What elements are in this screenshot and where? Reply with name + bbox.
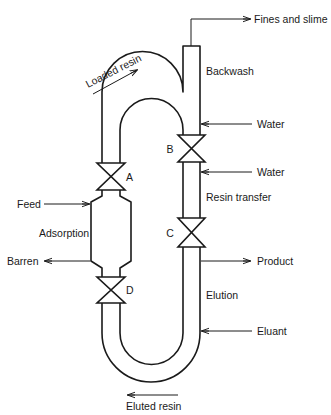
product-label: Product [257, 255, 293, 267]
elution-label: Elution [206, 289, 238, 301]
valve-a-label: A [126, 171, 133, 183]
fines-line [191, 19, 250, 46]
valve-d [97, 277, 125, 303]
ion-exchange-diagram: Fines and slime Backwash Water B Water A… [0, 0, 331, 415]
fines-label: Fines and slime [254, 13, 328, 25]
water-top-label: Water [257, 118, 285, 130]
resin-transfer-label: Resin transfer [206, 191, 272, 203]
backwash-label: Backwash [206, 65, 254, 77]
barren-label: Barren [7, 255, 39, 267]
top-arc-inner [120, 99, 183, 163]
eluted-resin-label: Eluted resin [126, 400, 182, 412]
valve-c-label: C [166, 227, 174, 239]
adsorption-label: Adsorption [39, 227, 89, 239]
water-mid-label: Water [257, 166, 285, 178]
valve-b [178, 135, 205, 162]
valve-c [178, 218, 205, 247]
valve-b-label: B [166, 143, 173, 155]
loaded-resin-label: Loaded resin [83, 51, 143, 89]
valve-d-label: D [126, 284, 134, 296]
adsorption-vessel [91, 190, 131, 277]
bottom-u-outer [102, 247, 200, 382]
valve-a [97, 163, 125, 190]
bottom-u-inner [120, 247, 183, 365]
feed-label: Feed [17, 198, 41, 210]
resin-loop [91, 46, 200, 382]
eluant-label: Eluant [257, 325, 287, 337]
